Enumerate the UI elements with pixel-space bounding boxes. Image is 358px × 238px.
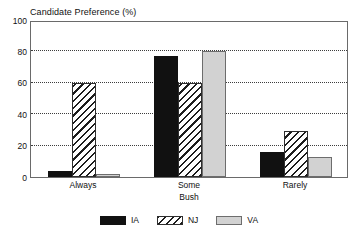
legend-item-va[interactable]: VA	[216, 215, 258, 225]
y-tick-label: 80	[3, 48, 27, 57]
legend-label: IA	[131, 215, 139, 225]
bar-some-va	[202, 51, 226, 177]
plot-area	[30, 21, 348, 178]
y-tick-label: 40	[3, 111, 27, 120]
bar-some-ia	[154, 56, 178, 177]
bar-rarely-ia	[260, 152, 284, 177]
legend-label: NJ	[188, 215, 198, 225]
legend-swatch-nj-icon	[157, 216, 183, 225]
y-tick-label: 60	[3, 79, 27, 88]
x-axis-title: Bush	[30, 192, 348, 203]
bar-always-ia	[48, 171, 72, 177]
legend-item-nj[interactable]: NJ	[157, 215, 198, 225]
legend-label: VA	[247, 215, 258, 225]
bar-chart: Candidate Preference (%) 020406080100 Al…	[0, 0, 358, 238]
legend-item-ia[interactable]: IA	[100, 215, 139, 225]
legend-swatch-va-icon	[216, 216, 242, 225]
y-axis: 020406080100	[0, 21, 27, 178]
bars-layer	[31, 22, 347, 177]
bar-some-nj	[178, 83, 202, 177]
legend-swatch-ia-icon	[100, 216, 126, 225]
chart-title: Candidate Preference (%)	[30, 7, 136, 18]
x-tick-label-some: Some	[136, 180, 242, 191]
bar-rarely-va	[308, 157, 332, 177]
y-tick-label: 0	[3, 174, 27, 183]
legend: IANJVA	[0, 212, 358, 228]
y-tick-label: 100	[3, 17, 27, 26]
y-tick-label: 20	[3, 142, 27, 151]
bar-rarely-nj	[284, 131, 308, 177]
bar-always-nj	[72, 83, 96, 177]
x-tick-label-rarely: Rarely	[242, 180, 348, 191]
bar-always-va	[96, 174, 120, 177]
x-tick-label-always: Always	[30, 180, 136, 191]
